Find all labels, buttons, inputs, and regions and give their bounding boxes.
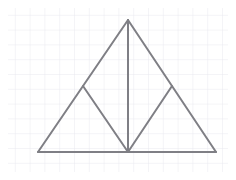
figure-canvas xyxy=(0,0,236,180)
geometry-figure-svg xyxy=(0,0,236,180)
